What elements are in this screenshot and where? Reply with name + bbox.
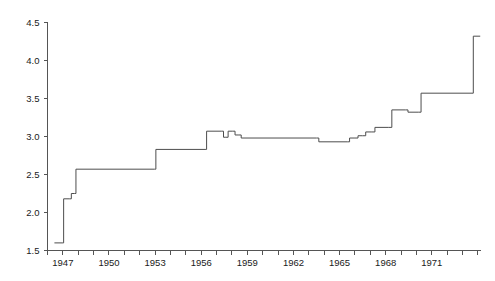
y-tick-label: 1.5: [26, 245, 39, 256]
x-tick-label: 1968: [375, 257, 396, 268]
y-tick-label: 3.0: [26, 131, 39, 142]
y-tick-label: 4.5: [26, 17, 39, 28]
x-tick-label: 1962: [283, 257, 304, 268]
x-tick-label: 1965: [329, 257, 350, 268]
step-line-chart: 1.52.02.53.03.54.04.5 194719501953195619…: [0, 0, 495, 281]
x-tick-label: 1959: [237, 257, 258, 268]
y-tick-label: 3.5: [26, 93, 39, 104]
y-axis: 1.52.02.53.03.54.04.5: [26, 17, 47, 256]
x-tick-label: 1950: [98, 257, 119, 268]
y-tick-label: 2.0: [26, 207, 39, 218]
y-tick-label: 2.5: [26, 169, 39, 180]
x-tick-label: 1971: [421, 257, 442, 268]
x-tick-label: 1953: [145, 257, 166, 268]
x-tick-label: 1956: [191, 257, 212, 268]
x-axis: 194719501953195619591962196519681971: [48, 251, 482, 268]
chart-container: 1.52.02.53.03.54.04.5 194719501953195619…: [0, 0, 495, 281]
y-tick-label: 4.0: [26, 55, 39, 66]
x-tick-label: 1947: [52, 257, 73, 268]
data-series-group: [54, 36, 480, 243]
data-series-line: [54, 36, 480, 243]
